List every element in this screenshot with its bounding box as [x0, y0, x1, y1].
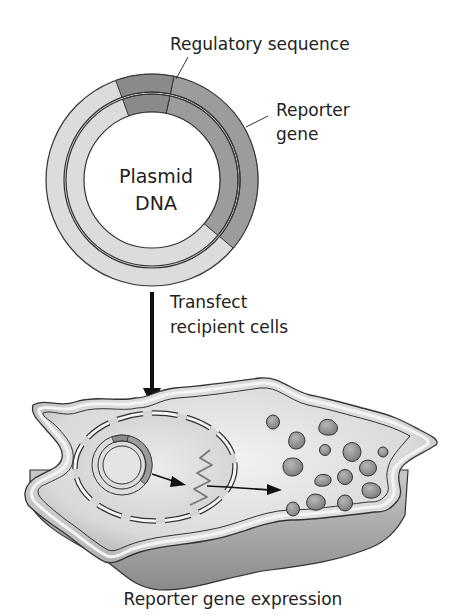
regulatory-sequence-label: Regulatory sequence — [170, 34, 350, 54]
down-arrow-icon — [143, 292, 161, 407]
regulatory-leader-line — [176, 57, 188, 79]
nucleus-plasmid-icon — [92, 435, 152, 495]
reporter-gene-label-line1: Reporter — [276, 100, 350, 120]
transfect-label-line2: recipient cells — [170, 317, 288, 337]
diagram-canvas: Regulatory sequence Reporter gene Plasmi… — [0, 0, 466, 616]
plasmid-label-line1: Plasmid — [119, 165, 193, 187]
reporter-leader-line — [246, 116, 268, 127]
plasmid-label-line2: DNA — [135, 192, 177, 214]
reporter-gene-label-line2: gene — [276, 124, 318, 144]
caption-label: Reporter gene expression — [124, 589, 343, 609]
transfect-label-line1: Transfect — [169, 292, 248, 312]
